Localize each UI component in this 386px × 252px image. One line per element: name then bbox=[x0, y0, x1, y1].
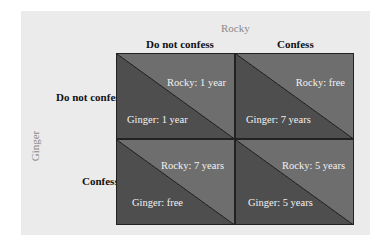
rocky-payoff: Rocky: 7 years bbox=[161, 160, 224, 171]
rocky-payoff: Rocky: free bbox=[296, 77, 345, 88]
row-header-confess: Confess bbox=[82, 175, 119, 187]
payoff-cell: Rocky: 5 years Ginger: 5 years bbox=[235, 139, 354, 225]
payoff-cell: Rocky: free Ginger: 7 years bbox=[235, 53, 354, 139]
payoff-cell: Rocky: 7 years Ginger: free bbox=[116, 139, 235, 225]
ginger-payoff: Ginger: 5 years bbox=[248, 197, 313, 208]
ginger-payoff: Ginger: 1 year bbox=[127, 114, 188, 125]
diagonal-split bbox=[236, 54, 354, 139]
column-player-label: Rocky bbox=[221, 22, 250, 34]
row-header-do-not-confess: Do not confess bbox=[56, 91, 124, 103]
diagonal-split bbox=[236, 140, 354, 225]
payoff-matrix: Rocky: 1 year Ginger: 1 year Rocky: free… bbox=[116, 53, 354, 225]
ginger-payoff: Ginger: 7 years bbox=[246, 114, 311, 125]
row-player-label: Ginger bbox=[29, 131, 41, 162]
diagonal-split bbox=[117, 54, 235, 139]
ginger-payoff: Ginger: free bbox=[132, 197, 183, 208]
rocky-payoff: Rocky: 5 years bbox=[282, 160, 345, 171]
column-header-confess: Confess bbox=[277, 38, 314, 50]
column-header-do-not-confess: Do not confess bbox=[146, 38, 214, 50]
diagonal-split bbox=[117, 140, 235, 225]
payoff-cell: Rocky: 1 year Ginger: 1 year bbox=[116, 53, 235, 139]
rocky-payoff: Rocky: 1 year bbox=[167, 77, 226, 88]
